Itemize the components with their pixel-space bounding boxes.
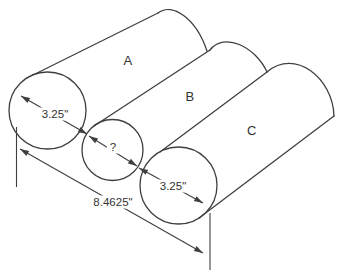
cylinder-c-bottom-silhouette <box>199 116 334 218</box>
dimension-c-arrow-lower-icon <box>194 196 203 203</box>
cylinder-c-outline <box>140 63 334 224</box>
dimension-a-value: 3.25" <box>39 108 71 121</box>
cylinder-b-far-cap-arc <box>210 42 267 72</box>
cylinder-b-outline <box>82 42 267 181</box>
dimension-c-value: 3.25" <box>157 180 189 193</box>
diagram-canvas <box>0 0 351 273</box>
dimension-a-arrow-upper-icon <box>21 96 30 103</box>
cylinder-c-top-silhouette <box>160 72 267 152</box>
dimension-overall-arrow-lower-icon <box>194 246 203 253</box>
dimension-b-arrow-lower-icon <box>128 159 137 166</box>
cylinder-c-label: C <box>247 123 257 138</box>
dimension-b-value: ? <box>107 141 119 154</box>
cylinder-a-top-silhouette <box>27 13 158 78</box>
cylinder-a-far-cap-arc <box>158 10 207 51</box>
dimension-b-arrow-upper-icon <box>89 136 98 143</box>
cylinder-c-far-cap-arc <box>267 63 334 116</box>
cylinder-b-label: B <box>185 89 194 104</box>
cylinder-a-label: A <box>123 53 132 68</box>
dimension-overall-arrow-upper-icon <box>20 149 29 156</box>
cylinder-a-outline <box>9 10 207 149</box>
dimension-overall-value: 8.4625" <box>90 196 135 209</box>
dimension-c-arrow-upper-icon <box>139 168 148 175</box>
cylinder-diagram: A B C 3.25" ? 3.25" 8.4625" <box>0 0 351 273</box>
